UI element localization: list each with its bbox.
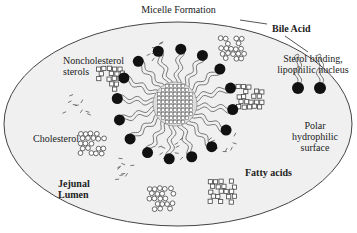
label-polar-line1: Polar — [283, 120, 347, 131]
label-sterol-binding: Sterol binding, lipophilic nucleus — [271, 53, 355, 75]
polar-head — [125, 133, 136, 144]
label-sterol-line2: lipophilic nucleus — [271, 64, 355, 75]
polar-head — [175, 44, 186, 55]
micelle-diagram: Micelle Formation Bile Acid Noncholester… — [0, 0, 357, 233]
polar-head — [164, 153, 175, 164]
label-jejunal-line2: Lumen — [58, 189, 90, 200]
polar-head — [214, 64, 225, 75]
label-noncholesterol-sterols: Noncholesterol sterols — [63, 55, 124, 77]
label-polar-line2: hydrophilic — [283, 131, 347, 142]
label-noncholesterol-line1: Noncholesterol — [63, 55, 124, 66]
polar-head — [133, 56, 144, 67]
label-bile-acid: Bile Acid — [272, 23, 311, 34]
polar-head — [112, 93, 123, 104]
label-cholesterol: Cholesterol — [33, 133, 79, 144]
label-jejunal-line1: Jejunal — [58, 178, 90, 189]
polar-head — [153, 46, 164, 57]
label-fatty-acids: Fatty acids — [245, 167, 292, 178]
polar-head — [197, 50, 208, 61]
label-noncholesterol-line2: sterols — [63, 66, 124, 77]
polar-head — [142, 147, 153, 158]
polar-head — [225, 83, 236, 94]
diagram-title: Micelle Formation — [0, 4, 357, 15]
label-polar-hydrophilic: Polar hydrophilic surface — [283, 120, 347, 153]
label-sterol-line1: Sterol binding, — [271, 53, 355, 64]
polar-head — [206, 141, 217, 152]
micelle-core — [153, 82, 197, 126]
noncholesterol-cluster-bottom — [208, 179, 236, 204]
bile-acid-leader-line — [240, 20, 267, 24]
label-polar-line3: surface — [283, 142, 347, 153]
polar-head — [221, 125, 232, 136]
diagram-canvas — [0, 0, 357, 233]
polar-head — [186, 151, 197, 162]
polar-head — [227, 104, 238, 115]
label-jejunal-lumen: Jejunal Lumen — [58, 178, 90, 200]
polar-head — [114, 114, 125, 125]
